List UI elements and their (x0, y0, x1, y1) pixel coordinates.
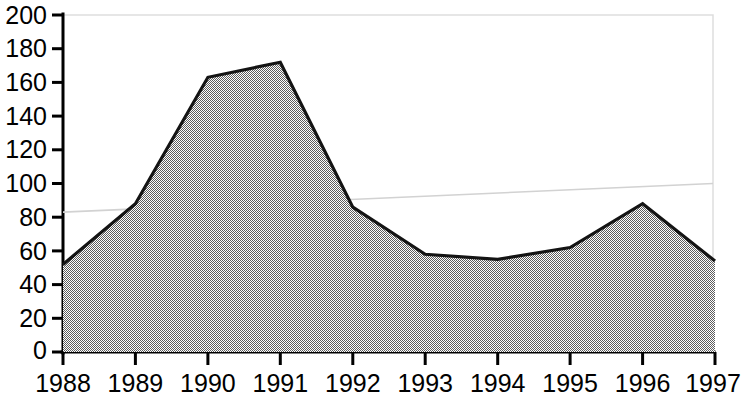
chart-canvas: 200 180 160 140 120 100 80 60 40 20 0 19… (0, 0, 746, 404)
y-tick-label: 120 (5, 135, 47, 163)
y-tick-label: 100 (5, 169, 47, 197)
x-tick-label: 1996 (615, 369, 671, 397)
area-chart: 200 180 160 140 120 100 80 60 40 20 0 19… (0, 0, 746, 404)
y-tick-label: 180 (5, 34, 47, 62)
y-tick-label: 160 (5, 68, 47, 96)
x-tick-label: 1995 (542, 369, 598, 397)
y-tick-label: 200 (5, 1, 47, 29)
x-tick-label: 1988 (35, 369, 91, 397)
y-tick-label: 40 (19, 270, 47, 298)
x-tick-label: 1989 (108, 369, 164, 397)
x-tick-label: 1992 (325, 369, 381, 397)
x-tick-label: 1997 (685, 369, 741, 397)
y-tick-label: 60 (19, 237, 47, 265)
x-tick-label: 1993 (397, 369, 453, 397)
x-tick-label: 1991 (252, 369, 308, 397)
y-tick-label: 0 (33, 336, 47, 364)
y-tick-label: 20 (19, 304, 47, 332)
x-tick-label: 1994 (470, 369, 526, 397)
y-tick-label: 80 (19, 203, 47, 231)
x-tick-label: 1990 (180, 369, 236, 397)
y-tick-label: 140 (5, 102, 47, 130)
